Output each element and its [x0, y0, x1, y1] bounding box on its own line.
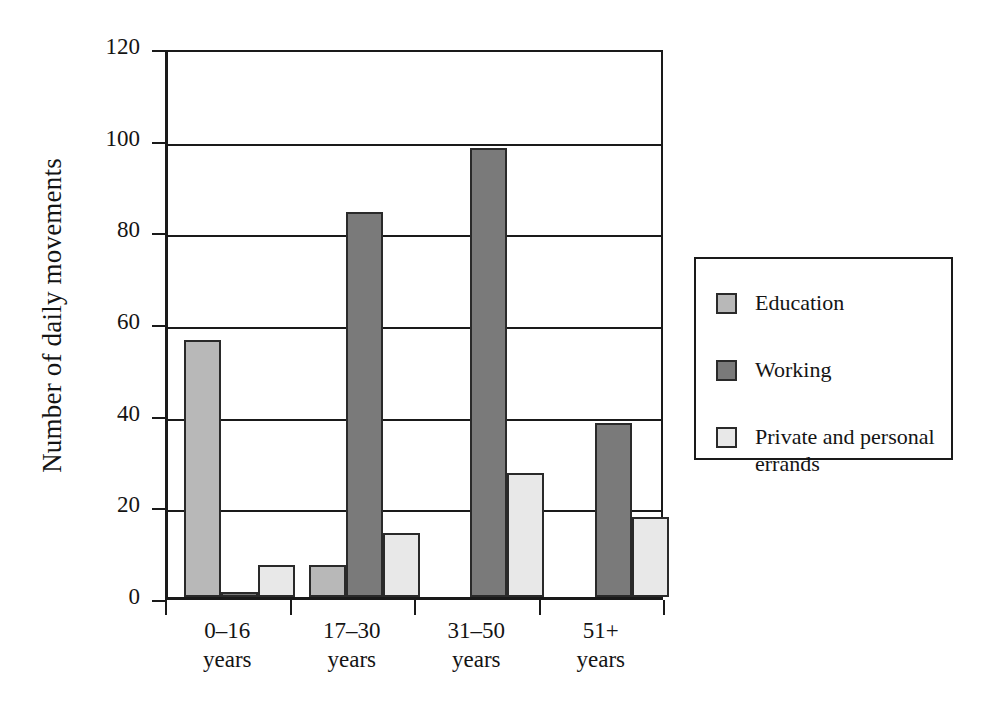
bar-private-and-personal-group-3 [632, 517, 669, 597]
y-tick-mark-120 [152, 50, 165, 52]
gridline-100 [168, 144, 661, 146]
legend-label: Private and personal errands [755, 423, 935, 478]
x-group-label-3: 51+ years [521, 616, 681, 675]
y-tick-label-120: 120 [70, 34, 140, 60]
bar-working-group-2 [470, 148, 507, 597]
plot-area [165, 50, 663, 600]
bar-working-group-1 [346, 212, 383, 597]
legend-label: Working [755, 356, 831, 383]
legend-swatch-icon [716, 293, 737, 314]
y-tick-label-60: 60 [70, 309, 140, 335]
y-tick-mark-100 [152, 142, 165, 144]
x-tick-mark-1 [290, 600, 292, 615]
y-tick-label-100: 100 [70, 126, 140, 152]
x-tick-mark-2 [414, 600, 416, 615]
x-tick-mark-4 [663, 600, 665, 615]
y-axis-title: Number of daily movements [37, 36, 68, 596]
x-tick-mark-3 [539, 600, 541, 615]
bar-education-group-0 [184, 340, 221, 597]
bar-private-and-personal-group-1 [383, 533, 420, 597]
legend-label: Education [755, 289, 844, 316]
y-tick-mark-20 [152, 508, 165, 510]
bar-working-group-3 [595, 423, 632, 597]
legend-swatch-icon [716, 360, 737, 381]
bar-working-group-0 [221, 592, 258, 597]
bar-private-and-personal-group-0 [258, 565, 295, 597]
legend: EducationWorkingPrivate and personal err… [694, 257, 953, 460]
y-tick-label-80: 80 [70, 217, 140, 243]
legend-swatch-icon [716, 427, 737, 448]
legend-item-education[interactable]: Education [716, 289, 844, 316]
y-tick-label-0: 0 [70, 584, 140, 610]
gridline-40 [168, 419, 661, 421]
gridline-60 [168, 327, 661, 329]
bar-chart: Number of daily movements 02040608010012… [0, 0, 1008, 710]
gridline-20 [168, 510, 661, 512]
legend-item-working[interactable]: Working [716, 356, 831, 383]
y-tick-label-20: 20 [70, 492, 140, 518]
gridline-80 [168, 235, 661, 237]
y-tick-mark-80 [152, 233, 165, 235]
y-tick-mark-60 [152, 325, 165, 327]
y-tick-mark-0 [152, 600, 165, 602]
x-tick-mark-0 [165, 600, 167, 615]
bar-private-and-personal-group-2 [507, 473, 544, 597]
bar-education-group-1 [309, 565, 346, 597]
y-tick-label-40: 40 [70, 401, 140, 427]
legend-item-private-and-personal[interactable]: Private and personal errands [716, 423, 935, 478]
y-tick-mark-40 [152, 417, 165, 419]
